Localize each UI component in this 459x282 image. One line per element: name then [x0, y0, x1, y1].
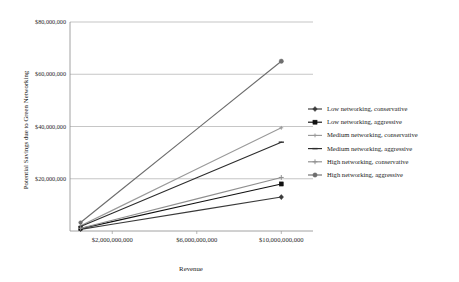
y-tick-label: $20,000,000: [35, 175, 66, 182]
legend-item[interactable]: High networking, conservative: [308, 158, 409, 165]
data-point-marker: [279, 175, 284, 180]
legend-item-label: Medium networking, conservative: [327, 131, 418, 138]
series-1: [79, 182, 284, 231]
y-axis-title: Potential Savings due to Green Networkin…: [22, 70, 29, 189]
data-point-marker: [313, 106, 318, 111]
x-axis-title: Revenue: [179, 265, 203, 272]
data-point-marker: [279, 182, 283, 186]
legend-item-label: High networking, conservative: [327, 158, 409, 165]
series-line: [81, 197, 282, 229]
y-axis-tick-labels: $20,000,000$40,000,000$60,000,000$80,000…: [35, 18, 66, 182]
data-point-marker: [313, 173, 317, 177]
chart-legend: Low networking, conservativeLow networki…: [308, 105, 418, 178]
y-tick-label: $60,000,000: [35, 70, 66, 77]
legend-item-label: Low networking, conservative: [327, 105, 407, 112]
legend-item[interactable]: High networking, aggressive: [308, 171, 403, 178]
legend-item[interactable]: Low networking, aggressive: [308, 118, 402, 125]
series-line: [81, 177, 282, 228]
legend-item[interactable]: Medium networking, aggressive: [308, 145, 412, 152]
chart-canvas: $20,000,000$40,000,000$60,000,000$80,000…: [0, 0, 459, 282]
legend-item-label: High networking, aggressive: [327, 171, 403, 178]
data-point-marker: [313, 134, 317, 138]
line-chart: $20,000,000$40,000,000$60,000,000$80,000…: [0, 0, 459, 282]
legend-item[interactable]: Medium networking, conservative: [308, 131, 418, 138]
data-point-marker: [79, 221, 83, 225]
y-tick-label: $80,000,000: [35, 18, 66, 25]
data-point-marker: [313, 120, 317, 124]
x-tick-label: $2,000,000,000: [92, 236, 134, 243]
y-tick-label: $40,000,000: [35, 123, 66, 130]
gridlines: [70, 22, 313, 179]
x-axis-tick-labels: $2,000,000,000$6,000,000,000$10,000,000,…: [92, 236, 305, 243]
legend-item-label: Low networking, aggressive: [327, 118, 402, 125]
data-point-marker: [279, 194, 284, 199]
series-line: [81, 61, 282, 222]
x-axis-tick-marks: [112, 231, 281, 234]
series-line: [81, 184, 282, 229]
x-tick-label: $10,000,000,000: [259, 236, 304, 243]
series-line: [81, 142, 282, 226]
series-layer: [78, 59, 284, 232]
data-point-marker: [313, 159, 318, 164]
legend-item-label: Medium networking, aggressive: [327, 145, 412, 152]
x-tick-label: $6,000,000,000: [176, 236, 218, 243]
legend-item[interactable]: Low networking, conservative: [308, 105, 407, 112]
data-point-marker: [279, 59, 283, 63]
